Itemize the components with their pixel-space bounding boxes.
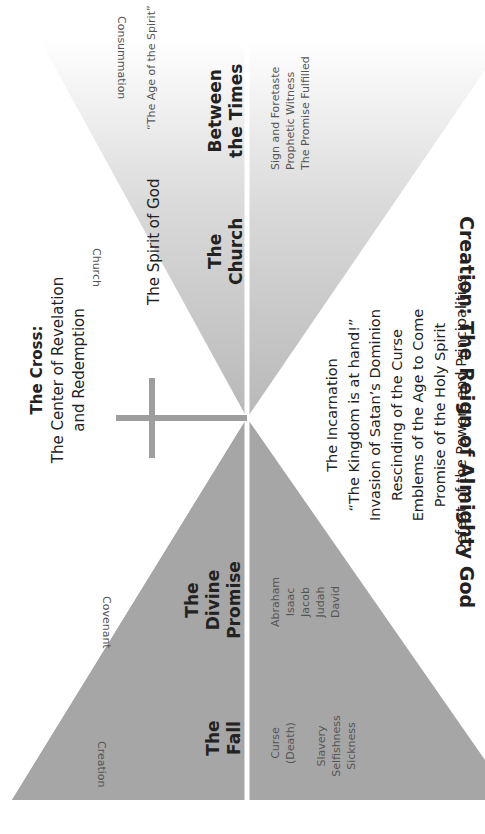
- heading-cross: The Cross: The Center of Revelation and …: [27, 255, 90, 485]
- heading-between-times: Between the Times: [205, 64, 247, 158]
- heading-divine-promise: The Divine Promise: [182, 558, 245, 642]
- kingdom-timeline-diagram: Creation: The Reign of Almighty God Cons…: [0, 0, 485, 834]
- heading-church: The Church: [205, 218, 247, 285]
- cross-icon: [116, 415, 247, 421]
- label-church: Church: [90, 248, 103, 287]
- between-times-items: Sign and Foretaste Prophetic Witness The…: [268, 56, 313, 170]
- divine-promise-items: Abraham Isaac Jacob Judah David: [268, 572, 343, 632]
- age-of-spirit-label: “The Age of the Spirit”: [145, 5, 158, 130]
- fall-items-effects: Slavery Selfishness Sickness: [314, 714, 359, 778]
- spirit-of-god-label: The Spirit of God: [145, 179, 163, 305]
- cross-items-list: The Incarnation “The Kingdom is at hand!…: [322, 275, 473, 555]
- fall-items-curse: Curse (Death): [268, 718, 298, 768]
- label-consummation: Consummation: [115, 16, 128, 99]
- label-creation: Creation: [95, 741, 108, 788]
- label-covenant: Covenant: [100, 596, 113, 649]
- heading-fall: The Fall: [203, 713, 245, 763]
